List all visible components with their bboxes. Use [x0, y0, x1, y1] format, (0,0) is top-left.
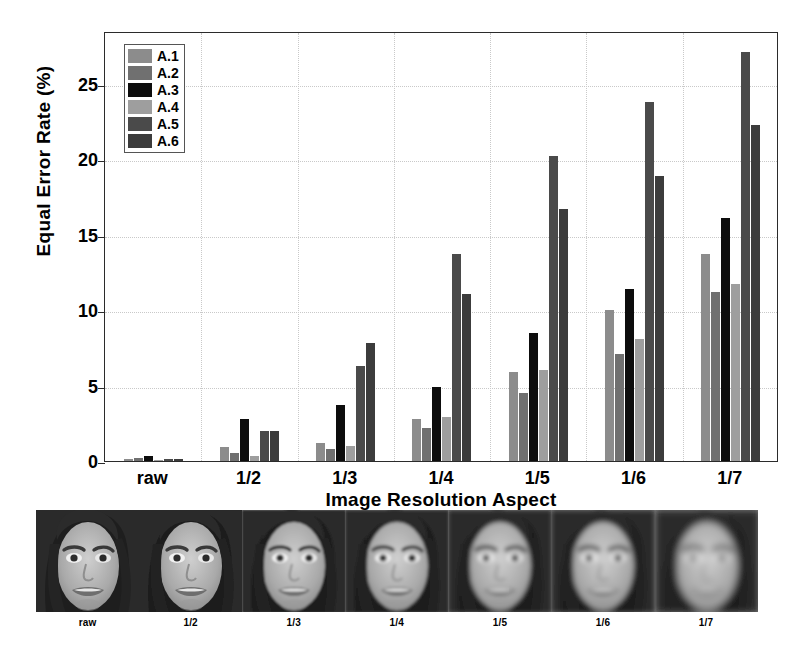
legend-swatch-a-6 — [128, 134, 152, 148]
y-tick-mark — [98, 312, 105, 313]
figure: Equal Error Rate (%) A.1A.2A.3A.4A.5A.6 … — [0, 0, 794, 664]
y-tick-mark — [98, 463, 105, 464]
legend-label: A.4 — [157, 100, 179, 114]
thumbnail-cell: 1/6 — [551, 510, 654, 628]
bar-a-3 — [144, 456, 153, 461]
legend-label: A.2 — [157, 66, 179, 80]
bar-a-4 — [442, 417, 451, 461]
bar-a-3 — [336, 405, 345, 461]
bar-a-6 — [751, 125, 760, 461]
bar-a-2 — [711, 292, 720, 461]
legend-item: A.6 — [128, 133, 179, 149]
thumbnail-cell: 1/4 — [345, 510, 448, 628]
x-tick-label: 1/5 — [487, 468, 587, 489]
bar-a-5 — [356, 366, 365, 461]
x-tick-label: 1/4 — [391, 468, 491, 489]
legend-swatch-a-4 — [128, 100, 152, 114]
bar-a-4 — [539, 370, 548, 461]
bar-a-2 — [326, 449, 335, 461]
bar-a-4 — [635, 339, 644, 461]
bar-group — [490, 33, 586, 461]
bar-a-3 — [625, 289, 634, 461]
bar-a-3 — [721, 218, 730, 461]
bar-a-5 — [741, 52, 750, 461]
y-tick-label: 25 — [38, 74, 98, 95]
x-tick-label: raw — [102, 468, 202, 489]
bar-group — [683, 33, 779, 461]
bar-a-3 — [529, 333, 538, 461]
thumbnail-strip: raw — [36, 510, 758, 628]
bar-a-5 — [549, 156, 558, 461]
legend-swatch-a-1 — [128, 49, 152, 63]
bar-group — [586, 33, 682, 461]
legend-item: A.2 — [128, 65, 179, 81]
thumbnail-cell: 1/3 — [242, 510, 345, 628]
legend-swatch-a-2 — [128, 66, 152, 80]
legend: A.1A.2A.3A.4A.5A.6 — [124, 44, 185, 153]
bar-a-6 — [174, 459, 183, 461]
legend-item: A.1 — [128, 48, 179, 64]
x-tick-label: 1/3 — [295, 468, 395, 489]
y-tick-mark — [98, 237, 105, 238]
face-thumbnail-image — [448, 510, 551, 612]
bar-a-5 — [260, 431, 269, 461]
x-tick-label: 1/7 — [680, 468, 780, 489]
thumbnail-label: raw — [79, 617, 97, 628]
face-thumbnail-image — [551, 510, 654, 612]
thumbnail-label: 1/6 — [596, 617, 611, 628]
legend-swatch-a-5 — [128, 117, 152, 131]
y-tick-label: 10 — [38, 301, 98, 322]
bar-a-2 — [134, 458, 143, 461]
bar-a-6 — [559, 209, 568, 461]
legend-label: A.3 — [157, 83, 179, 97]
bar-group — [394, 33, 490, 461]
bar-a-6 — [655, 176, 664, 461]
x-axis-title: Image Resolution Aspect — [104, 489, 778, 511]
bar-a-5 — [164, 459, 173, 461]
bar-a-6 — [366, 343, 375, 461]
bar-a-4 — [731, 284, 740, 461]
x-tick-label: 1/2 — [198, 468, 298, 489]
x-tick-label: 1/6 — [584, 468, 684, 489]
plot-area — [104, 32, 778, 462]
y-tick-label: 5 — [38, 376, 98, 397]
face-thumbnail-image — [345, 510, 448, 612]
thumbnail-cell: 1/7 — [655, 510, 758, 628]
thumbnail-cell: raw — [36, 510, 139, 628]
bar-a-5 — [645, 102, 654, 461]
thumbnail-label: 1/2 — [183, 617, 198, 628]
y-tick-mark — [98, 388, 105, 389]
bar-a-3 — [240, 419, 249, 461]
bar-group — [298, 33, 394, 461]
face-thumbnail-image — [139, 510, 242, 612]
bar-a-6 — [270, 431, 279, 461]
bar-group — [201, 33, 297, 461]
face-thumbnail-image — [655, 510, 758, 612]
bar-a-1 — [124, 459, 133, 461]
bar-a-4 — [250, 456, 259, 461]
legend-label: A.5 — [157, 117, 179, 131]
bar-a-5 — [452, 254, 461, 461]
bar-a-2 — [615, 354, 624, 461]
bar-a-1 — [509, 372, 518, 461]
bar-a-1 — [316, 443, 325, 461]
bar-a-4 — [154, 460, 163, 462]
bar-a-4 — [346, 446, 355, 461]
y-tick-label: 0 — [38, 452, 98, 473]
thumbnail-label: 1/3 — [286, 617, 301, 628]
legend-label: A.6 — [157, 134, 179, 148]
face-thumbnail-image — [242, 510, 345, 612]
bar-a-2 — [230, 453, 239, 461]
bar-a-1 — [701, 254, 710, 461]
thumbnail-label: 1/4 — [390, 617, 405, 628]
legend-item: A.3 — [128, 82, 179, 98]
y-tick-label: 15 — [38, 225, 98, 246]
thumbnail-cell: 1/5 — [448, 510, 551, 628]
bar-a-2 — [422, 428, 431, 461]
thumbnail-label: 1/5 — [493, 617, 508, 628]
bar-a-1 — [605, 310, 614, 461]
face-thumbnail-image — [36, 510, 139, 612]
y-tick-mark — [98, 161, 105, 162]
legend-swatch-a-3 — [128, 83, 152, 97]
y-tick-label: 20 — [38, 150, 98, 171]
